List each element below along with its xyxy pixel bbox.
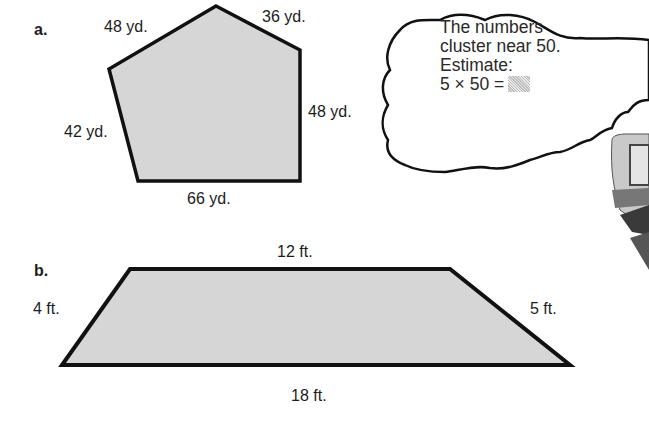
- trapezoid-shape: [62, 269, 570, 365]
- side-label-left: 42 yd.: [64, 123, 108, 141]
- estimate-expression: 5 × 50 =: [440, 74, 504, 94]
- side-label-top-left: 48 yd.: [104, 18, 148, 36]
- side-label-bottom: 66 yd.: [187, 190, 231, 208]
- side-label-right: 5 ft.: [530, 300, 557, 318]
- problem-a-label: a.: [34, 21, 47, 39]
- side-label-right: 48 yd.: [308, 103, 352, 121]
- side-label-left: 4 ft.: [33, 300, 60, 318]
- bubble-line-3: Estimate:: [440, 56, 561, 75]
- bubble-line-1: The numbers: [440, 18, 561, 37]
- character-illustration: [611, 134, 649, 270]
- thought-bubble-text: The numbers cluster near 50. Estimate: 5…: [440, 18, 561, 94]
- bubble-line-4: 5 × 50 =: [440, 75, 561, 94]
- bubble-line-2: cluster near 50.: [440, 37, 561, 56]
- side-label-bottom: 18 ft.: [291, 387, 327, 405]
- side-label-top: 12 ft.: [277, 243, 313, 261]
- side-label-top-right: 36 yd.: [262, 8, 306, 26]
- problem-b-label: b.: [34, 262, 48, 280]
- answer-blank-box: [508, 76, 530, 92]
